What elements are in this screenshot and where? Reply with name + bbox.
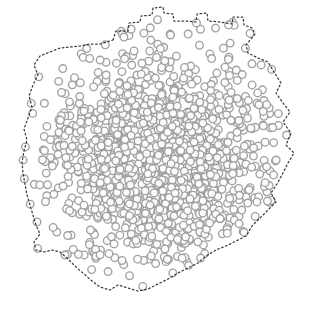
scatter-figure: Dense cloud of small gray-outlined circl… — [0, 0, 315, 314]
scatter-plot-canvas[interactable] — [0, 0, 315, 314]
